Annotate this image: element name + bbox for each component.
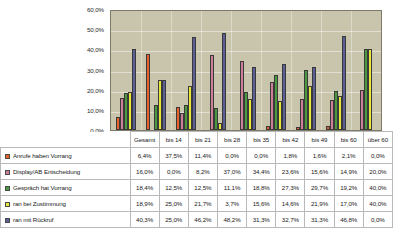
bar-group	[171, 11, 201, 130]
data-cell: 46,2%	[188, 212, 217, 228]
column-header-6: bis 49	[305, 132, 334, 148]
data-cell: 46,8%	[334, 212, 363, 228]
data-cell: 40,0%	[363, 196, 392, 212]
bar	[192, 37, 196, 130]
data-cell: 23,6%	[276, 164, 305, 180]
bar-group	[261, 11, 291, 130]
y-axis-tick-label: 50,0%	[87, 27, 104, 33]
table-row: ran bei Zustimmung18,9%25,0%21,7%3,7%15,…	[1, 196, 393, 212]
legend-label: ran mit Rückruf	[13, 216, 53, 223]
data-cell: 12,5%	[188, 180, 217, 196]
bar	[222, 33, 226, 130]
data-cell: 0,0%	[217, 148, 246, 164]
data-cell: 27,3%	[276, 180, 305, 196]
column-header-5: bis 42	[276, 132, 305, 148]
y-axis-tick-label: 40,0%	[87, 47, 104, 53]
table-row: Anrufe haben Vorrang6,4%37,5%11,4%0,0%0,…	[1, 148, 393, 164]
bar	[312, 67, 316, 130]
column-header-3: bis 28	[217, 132, 246, 148]
plot-area	[110, 10, 382, 131]
chart-page: 60,0%50,0%40,0%30,0%20,0%10,0%0,0% Gesam…	[0, 0, 393, 239]
bar	[132, 49, 136, 130]
bar	[162, 80, 166, 130]
legend-swatch-icon	[5, 218, 10, 223]
data-cell: 31,3%	[247, 212, 276, 228]
data-cell: 16,0%	[130, 164, 159, 180]
data-cell: 21,7%	[188, 196, 217, 212]
data-cell: 29,7%	[305, 180, 334, 196]
data-cell: 18,8%	[247, 180, 276, 196]
data-cell: 0,0%	[159, 164, 188, 180]
legend-row-3: ran bei Zustimmung	[1, 196, 131, 212]
bar-groups	[111, 11, 381, 130]
data-cell: 40,0%	[363, 180, 392, 196]
table-corner-cell	[1, 132, 131, 148]
data-cell: 18,4%	[130, 180, 159, 196]
data-cell: 37,5%	[159, 148, 188, 164]
bar-group	[111, 11, 141, 130]
data-cell: 32,7%	[276, 212, 305, 228]
y-axis-tick-label: 60,0%	[87, 7, 104, 13]
column-header-0: Gesamt	[130, 132, 159, 148]
data-cell: 48,2%	[217, 212, 246, 228]
legend-swatch-icon	[5, 202, 10, 207]
table-row: Display/AB Entscheidung16,0%0,0%8,2%37,0…	[1, 164, 393, 180]
data-cell: 14,9%	[334, 164, 363, 180]
bar	[342, 36, 346, 130]
legend-row-1: Display/AB Entscheidung	[1, 164, 131, 180]
legend-label: ran bei Zustimmung	[13, 200, 66, 207]
data-cell: 19,2%	[334, 180, 363, 196]
table-body: Anrufe haben Vorrang6,4%37,5%11,4%0,0%0,…	[1, 148, 393, 228]
bar-group	[201, 11, 231, 130]
data-cell: 11,1%	[217, 180, 246, 196]
data-cell: 21,9%	[305, 196, 334, 212]
legend-swatch-icon	[5, 154, 10, 159]
bar-group	[141, 11, 171, 130]
data-cell: 8,2%	[188, 164, 217, 180]
data-cell: 12,5%	[159, 180, 188, 196]
data-cell: 40,3%	[130, 212, 159, 228]
legend-swatch-icon	[5, 186, 10, 191]
bar-group	[351, 11, 381, 130]
table-row: ran mit Rückruf40,3%25,0%46,2%48,2%31,3%…	[1, 212, 393, 228]
bar-group	[321, 11, 351, 130]
bar-group	[291, 11, 321, 130]
data-cell: 31,3%	[305, 212, 334, 228]
data-cell: 3,7%	[217, 196, 246, 212]
data-cell: 11,4%	[188, 148, 217, 164]
legend-label: Anrufe haben Vorrang	[13, 152, 72, 159]
y-axis-tick-labels: 60,0%50,0%40,0%30,0%20,0%10,0%0,0%	[58, 10, 108, 131]
bar	[252, 67, 256, 130]
data-cell: 0,0%	[363, 212, 392, 228]
data-cell: 0,0%	[247, 148, 276, 164]
table-header-row: Gesamtbis 14bis 21bis 28bis 35bis 42bis …	[1, 132, 393, 148]
y-axis-tick-label: 30,0%	[87, 67, 104, 73]
column-header-2: bis 21	[188, 132, 217, 148]
data-cell: 25,0%	[159, 212, 188, 228]
legend-row-0: Anrufe haben Vorrang	[1, 148, 131, 164]
y-axis-tick-label: 20,0%	[87, 88, 104, 94]
y-axis-tick-label: 10,0%	[87, 108, 104, 114]
table-row: Gespräch hat Vorrang18,4%12,5%12,5%11,1%…	[1, 180, 393, 196]
bar	[368, 49, 372, 130]
legend-row-4: ran mit Rückruf	[1, 212, 131, 228]
data-cell: 1,6%	[305, 148, 334, 164]
data-table-wrapper: Gesamtbis 14bis 21bis 28bis 35bis 42bis …	[0, 131, 393, 228]
legend-swatch-icon	[5, 170, 10, 175]
bar-group	[231, 11, 261, 130]
data-cell: 34,4%	[247, 164, 276, 180]
data-cell: 25,0%	[159, 196, 188, 212]
data-cell: 17,0%	[334, 196, 363, 212]
legend-label: Gespräch hat Vorrang	[13, 184, 72, 191]
data-cell: 1,8%	[276, 148, 305, 164]
column-header-4: bis 35	[247, 132, 276, 148]
data-cell: 6,4%	[130, 148, 159, 164]
data-cell: 18,9%	[130, 196, 159, 212]
data-table: Gesamtbis 14bis 21bis 28bis 35bis 42bis …	[0, 131, 393, 228]
column-header-1: bis 14	[159, 132, 188, 148]
column-header-7: bis 60	[334, 132, 363, 148]
data-cell: 20,0%	[363, 164, 392, 180]
column-header-8: über 60	[363, 132, 392, 148]
bar	[146, 54, 150, 130]
data-cell: 15,6%	[247, 196, 276, 212]
